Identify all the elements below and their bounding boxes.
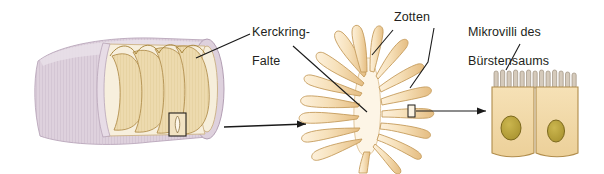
microvillus [520, 71, 524, 88]
kerckring-folds-group [112, 46, 209, 134]
cell-nucleus [548, 120, 565, 142]
microvillus [559, 71, 563, 88]
label-mikrovilli-line1: Mikrovilli des [468, 25, 541, 39]
villus [359, 152, 370, 173]
microvillus [533, 71, 537, 88]
villus [302, 128, 360, 142]
microvillus [553, 70, 557, 88]
panel-intestinal-tube [35, 38, 224, 145]
arrow-tube-to-villi [224, 121, 306, 128]
label-kerckring-line2: Falte [252, 54, 280, 68]
villi-right-group [373, 39, 434, 174]
figure-intestinal-surface-enlargement: Kerckring- Falte Zotten Mikrovilli des B… [0, 0, 604, 174]
villus [380, 123, 431, 138]
leader-zotten-to-right-villus [410, 28, 434, 88]
label-mikrovilli-des-buerstensaums: Mikrovilli des Bürstensaums [468, 10, 549, 68]
villi-bottom-group [359, 152, 370, 173]
microvillus [501, 70, 505, 88]
label-mikrovilli-line2: Bürstensaums [468, 54, 549, 68]
microvillus [546, 71, 550, 88]
microvillus [507, 71, 511, 88]
panel-epithelial-cells [492, 70, 578, 157]
microvillus [494, 71, 498, 88]
microvillus [540, 70, 544, 88]
microvillus [566, 72, 570, 88]
microvillus [527, 70, 531, 88]
villus [299, 112, 359, 123]
label-kerckring-line1: Kerckring- [252, 25, 310, 39]
villus [312, 139, 362, 160]
panel-villi-rosette [299, 25, 434, 174]
marker-box-icon [408, 105, 415, 117]
label-kerckring-falte: Kerckring- Falte [252, 10, 310, 68]
cell-nucleus [501, 116, 521, 140]
microvilli-brush-border [494, 70, 576, 88]
label-zotten: Zotten [394, 10, 430, 25]
microvillus [572, 73, 576, 88]
marker-box-icon [169, 113, 186, 136]
villus [381, 87, 431, 105]
microvillus [514, 70, 518, 88]
